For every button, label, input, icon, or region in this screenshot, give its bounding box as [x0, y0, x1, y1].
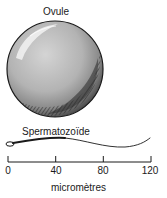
scale-tick-label: 80: [97, 165, 108, 177]
scale-tick-label: 40: [50, 165, 61, 177]
spermatozoid-shape: [6, 138, 150, 147]
ovule-label: Ovule: [43, 6, 69, 18]
scale-bar: [8, 156, 151, 162]
scale-tick-label: 0: [5, 165, 11, 177]
ovule-sphere: [7, 21, 103, 117]
scale-tick-label: 120: [142, 165, 159, 177]
scale-unit-label: micromètres: [51, 182, 106, 194]
spermatozoid-label: Spermatozoïde: [22, 126, 90, 138]
